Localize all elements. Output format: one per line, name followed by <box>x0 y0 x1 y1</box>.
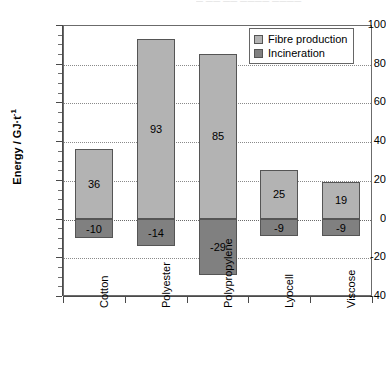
x-axis-category-label: Viscose <box>346 270 357 308</box>
x-axis-category-label: Polypropylene <box>223 238 234 308</box>
legend-label-fibre-production: Fibre production <box>268 34 348 45</box>
legend-swatch-icon-incineration <box>254 49 263 58</box>
x-axis-tick <box>63 296 64 303</box>
y-axis-minor-tick <box>58 199 62 200</box>
chart-legend: Fibre production Incineration <box>249 28 354 64</box>
bar-value-label: -9 <box>261 223 297 234</box>
bar-incineration: -9 <box>322 219 360 236</box>
y-axis-tick <box>56 257 62 258</box>
y-axis-minor-tick <box>58 122 62 123</box>
y-axis-tick <box>56 180 62 181</box>
y-axis-minor-tick <box>58 93 62 94</box>
y-axis-minor-tick <box>58 83 62 84</box>
energy-bar-chart-figure: — —— —— ———— ———— Energy / GJ·t-1 100806… <box>0 0 386 378</box>
x-axis-tick <box>372 296 373 303</box>
y-axis-minor-tick <box>58 286 62 287</box>
y-axis-minor-tick <box>58 267 62 268</box>
y-axis-tick <box>56 141 62 142</box>
y-axis-minor-tick <box>58 44 62 45</box>
x-axis-category-label: Polyester <box>161 262 172 308</box>
bar-incineration: -10 <box>75 219 113 238</box>
y-axis-minor-tick <box>58 248 62 249</box>
legend-label-incineration: Incineration <box>268 48 325 59</box>
bar-incineration: -9 <box>260 219 298 236</box>
y-axis-minor-tick <box>58 209 62 210</box>
x-axis-tick <box>310 296 311 303</box>
legend-item-fibre-production: Fibre production <box>254 32 348 46</box>
y-axis-tick <box>56 296 62 297</box>
y-axis-tick-label: -40 <box>334 290 386 301</box>
bar-value-label: 93 <box>138 124 174 135</box>
y-axis-tick <box>56 64 62 65</box>
y-axis-minor-tick <box>58 228 62 229</box>
y-axis-tick-label: -20 <box>334 251 386 262</box>
bar-fibre-production: 25 <box>260 170 298 218</box>
y-axis-minor-tick <box>58 35 62 36</box>
y-axis-minor-tick <box>58 54 62 55</box>
x-axis-category-label: Cotton <box>99 276 110 308</box>
y-axis-minor-tick <box>58 277 62 278</box>
bar-value-label: -10 <box>76 224 112 235</box>
clipped-header-artifact: — —— —— ———— ———— <box>196 0 376 5</box>
y-axis-title: Energy / GJ·t-1 <box>9 87 23 207</box>
legend-item-incineration: Incineration <box>254 46 348 60</box>
y-axis-tick-label: 40 <box>334 135 386 146</box>
y-axis-minor-tick <box>58 112 62 113</box>
bar-fibre-production: 19 <box>322 182 360 219</box>
y-axis-minor-tick <box>58 151 62 152</box>
x-axis-category-label: Lyocell <box>284 274 295 308</box>
y-axis-minor-tick <box>58 131 62 132</box>
y-axis-tick-label: 60 <box>334 96 386 107</box>
y-axis-title-exponent: -1 <box>9 109 18 116</box>
bar-value-label: 36 <box>76 179 112 190</box>
bar-value-label: -9 <box>323 223 359 234</box>
bar-fibre-production: 36 <box>75 149 113 219</box>
bar-value-label: 25 <box>261 189 297 200</box>
y-axis-minor-tick <box>58 170 62 171</box>
x-axis-tick <box>125 296 126 303</box>
y-axis-tick <box>56 102 62 103</box>
y-axis-tick <box>56 219 62 220</box>
y-axis-line <box>62 25 63 296</box>
y-axis-minor-tick <box>58 161 62 162</box>
y-axis-tick <box>56 25 62 26</box>
x-axis-tick <box>248 296 249 303</box>
x-axis-tick <box>187 296 188 303</box>
bar-incineration: -14 <box>137 219 175 246</box>
y-axis-minor-tick <box>58 73 62 74</box>
legend-swatch-icon-fibre-production <box>254 35 263 44</box>
bar-value-label: 85 <box>200 131 236 142</box>
y-axis-minor-tick <box>58 238 62 239</box>
bar-fibre-production: 85 <box>199 54 237 219</box>
bar-value-label: -14 <box>138 228 174 239</box>
y-axis-minor-tick <box>58 190 62 191</box>
bar-value-label: 19 <box>323 195 359 206</box>
bar-fibre-production: 93 <box>137 39 175 219</box>
y-axis-title-text: Energy / GJ·t <box>11 116 23 184</box>
